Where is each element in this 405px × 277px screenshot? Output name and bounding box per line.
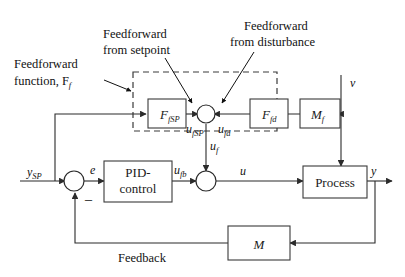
signal-label-ysp: ySP: [26, 165, 42, 181]
annotation-ff-disturbance-line2: from disturbance: [230, 35, 315, 49]
diagram-canvas: FfSP Ffd Mf PID- control Process M ySP e…: [0, 0, 405, 277]
block-process-label: Process: [315, 175, 355, 190]
annotation-ff-setpoint-line2: from setpoint: [103, 43, 171, 57]
block-pid-label-line2: control: [120, 181, 157, 196]
annotation-feedback-label: Feedback: [118, 251, 167, 265]
annotation-arrow-ff-disturbance: [222, 52, 254, 103]
control-block-diagram: FfSP Ffd Mf PID- control Process M ySP e…: [0, 0, 405, 277]
signal-label-v: v: [350, 76, 356, 90]
minus-sign-label: _: [84, 187, 93, 202]
annotation-arrow-ff-function: [104, 80, 131, 91]
signal-label-error: e: [90, 163, 96, 177]
block-m-label: M: [253, 237, 266, 252]
signal-label-uf: uf: [210, 139, 220, 155]
signal-label-ufb: ufb: [174, 163, 187, 179]
annotation-ff-function-line2: function, Ff: [14, 74, 73, 90]
annotation-arrow-ff-setpoint: [165, 58, 192, 103]
annotation-ff-function-line1: Feedforward: [14, 57, 79, 71]
annotation-ff-setpoint-line1: Feedforward: [103, 27, 168, 41]
signal-label-ufd: ufd: [218, 122, 231, 138]
block-pid-label-line1: PID-: [125, 165, 150, 180]
signal-label-y: y: [370, 164, 377, 178]
signal-label-ufsp: ufSP: [186, 122, 204, 138]
summing-junction-error[interactable]: [64, 171, 84, 191]
summing-junction-feedforward[interactable]: [197, 105, 215, 123]
signal-label-u: u: [240, 164, 246, 178]
annotation-ff-disturbance-line1: Feedforward: [244, 19, 309, 33]
summing-junction-control[interactable]: [196, 171, 216, 191]
